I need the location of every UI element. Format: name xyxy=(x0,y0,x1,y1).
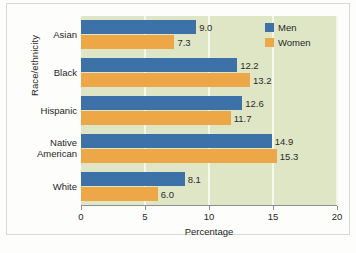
category-label-asian: Asian xyxy=(53,29,77,40)
bar-black-women[interactable] xyxy=(81,73,250,87)
bar-native_american-men[interactable] xyxy=(81,134,272,148)
bar-row: 8.1 xyxy=(81,172,337,186)
x-tick-20 xyxy=(337,206,338,210)
category-label-white: White xyxy=(53,181,77,192)
x-tick-0 xyxy=(81,206,82,210)
bar-asian-men[interactable] xyxy=(81,20,196,34)
chart-figure: Race/ethnicity Percentage Men Women 9.07… xyxy=(0,0,356,253)
y-axis-title: Race/ethnicity xyxy=(29,0,40,146)
bar-value-black-women: 13.2 xyxy=(250,75,272,86)
bar-hispanic-men[interactable] xyxy=(81,96,242,110)
bar-row: 7.3 xyxy=(81,35,337,49)
bar-row: 12.2 xyxy=(81,58,337,72)
category-label-line: Native xyxy=(37,137,77,148)
x-ticklabel-10: 10 xyxy=(204,211,215,222)
bar-row: 15.3 xyxy=(81,149,337,163)
x-tick-10 xyxy=(209,206,210,210)
bar-value-hispanic-women: 11.7 xyxy=(231,113,252,124)
x-ticklabel-5: 5 xyxy=(142,211,147,222)
x-ticklabel-0: 0 xyxy=(78,211,83,222)
bar-row: 11.7 xyxy=(81,111,337,125)
bar-native_american-women[interactable] xyxy=(81,149,277,163)
bar-value-native_american-men: 14.9 xyxy=(272,135,294,146)
bar-hispanic-women[interactable] xyxy=(81,111,231,125)
bar-asian-women[interactable] xyxy=(81,35,174,49)
category-label-line: Hispanic xyxy=(41,105,77,116)
category-label-line: Black xyxy=(54,67,77,78)
bar-row: 14.9 xyxy=(81,134,337,148)
bar-row: 12.6 xyxy=(81,96,337,110)
bar-value-asian-men: 9.0 xyxy=(196,22,212,33)
bar-value-native_american-women: 15.3 xyxy=(277,150,299,161)
bar-row: 6.0 xyxy=(81,187,337,201)
category-label-line: White xyxy=(53,181,77,192)
bar-black-men[interactable] xyxy=(81,58,237,72)
bar-row: 13.2 xyxy=(81,73,337,87)
bar-white-men[interactable] xyxy=(81,172,185,186)
x-tick-15 xyxy=(273,206,274,210)
category-label-hispanic: Hispanic xyxy=(41,105,77,116)
x-ticklabel-15: 15 xyxy=(268,211,279,222)
category-label-black: Black xyxy=(54,67,77,78)
bar-value-black-men: 12.2 xyxy=(237,60,259,71)
x-ticklabel-20: 20 xyxy=(332,211,343,222)
x-tick-5 xyxy=(145,206,146,210)
bar-row: 9.0 xyxy=(81,20,337,34)
category-label-native_american: NativeAmerican xyxy=(37,137,77,159)
bar-white-women[interactable] xyxy=(81,187,158,201)
bar-value-asian-women: 7.3 xyxy=(174,37,190,48)
bar-value-hispanic-men: 12.6 xyxy=(242,98,264,109)
bar-value-white-men: 8.1 xyxy=(185,173,201,184)
category-label-line: American xyxy=(37,148,77,159)
category-label-line: Asian xyxy=(53,29,77,40)
x-axis-title: Percentage xyxy=(81,226,337,237)
bar-value-white-women: 6.0 xyxy=(158,188,174,199)
